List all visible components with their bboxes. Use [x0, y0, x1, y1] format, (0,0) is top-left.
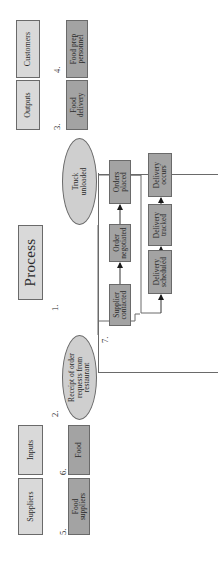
step-delivery-tracked: Delivery tracked [148, 204, 172, 246]
step-order-negotiated: Order negotiated [109, 224, 131, 262]
step-order-negotiated-label: Order negotiated [113, 227, 128, 258]
step-delivery-occurs-label: Delivery occurs [153, 162, 168, 188]
step-supplier-contacted: Supplier contacted [109, 284, 131, 326]
step-delivery-scheduled: Delivery scheduled [148, 250, 172, 294]
step-orders-placed: Orders placed [109, 160, 131, 204]
sipoc-diagram: Suppliers Inputs Process Outputs Custome… [0, 0, 218, 561]
flow-line-rail-2 [98, 372, 218, 373]
connector-lines [0, 0, 218, 561]
step-delivery-scheduled-label: Delivery scheduled [153, 257, 168, 287]
flow-line-main [98, 173, 99, 373]
step-delivery-tracked-label: Delivery tracked [153, 212, 168, 238]
step-supplier-contacted-label: Supplier contacted [113, 291, 128, 320]
step-delivery-occurs: Delivery occurs [148, 153, 172, 197]
step-orders-placed-label: Orders placed [113, 172, 128, 192]
